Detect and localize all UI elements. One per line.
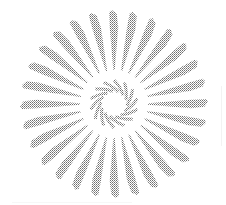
scan-edge-artifact-bottom [12, 202, 132, 203]
sunburst-rosette-figure [0, 0, 226, 205]
scan-edge-artifact-right [221, 86, 222, 146]
ornament-canvas [0, 0, 226, 205]
white-core-disc [104, 94, 124, 114]
